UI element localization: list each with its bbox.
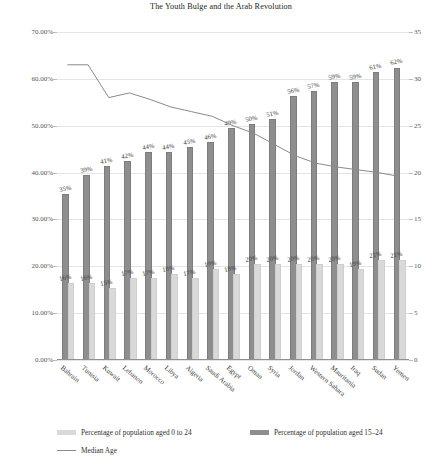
legend-swatch-line [57,450,76,451]
y-axis-right-tick [409,360,413,361]
chart-container: The Youth Bulge and the Arab Revolution … [0,0,442,475]
y-axis-right-tick-label: 25 [414,122,438,130]
y-axis-right-tick-label: 10 [414,262,438,270]
y-axis-right-tick [409,219,413,220]
y-axis-right-tick-label: 15 [414,215,438,223]
median-age-line-series [57,32,409,360]
x-axis-label-tunisia: Tunisia [80,364,101,383]
y-axis-right-tick [409,266,413,267]
y-axis-right-tick-label: 30 [414,75,438,83]
x-axis-label-lebanon: Lebanon [121,364,145,386]
y-axis-left-tick-label: 50.00% [3,122,53,130]
x-axis-label-algeria: Algeria [183,364,204,384]
legend-label: Percentage of population aged 0 to 24 [81,428,192,437]
plot-area: 35%16%39%16%41%15%42%17%44%17%44%18%45%1… [57,32,409,360]
x-axis-label-oman: Oman [246,364,264,381]
y-axis-left-tick-label: 30.00% [3,215,53,223]
y-axis-right-tick [409,126,413,127]
y-axis-left-tick-label: 0.00% [3,356,53,364]
legend-label: Median Age [81,446,117,455]
y-axis-right-tick-label: 5 [414,309,438,317]
x-axis-label-bahrain: Bahrain [59,364,81,384]
chart-title: The Youth Bulge and the Arab Revolution [0,2,442,11]
y-axis-left-tick-label: 60.00% [3,75,53,83]
y-axis-left-tick-label: 40.00% [3,169,53,177]
y-axis-right-tick-label: 0 [414,356,438,364]
y-axis-left-tick-label: 20.00% [3,262,53,270]
legend-label: Percentage of population aged 15–24 [274,428,383,437]
legend-item[interactable]: Percentage of population aged 0 to 24 [57,428,192,437]
x-axis-label-egypt: Egypt [225,364,243,381]
y-axis-right-tick-label: 35 [414,28,438,36]
x-axis-baseline [57,359,409,360]
x-axis-label-kuwait: Kuwait [101,364,122,383]
y-axis-right-tick [409,32,413,33]
y-axis-left-tick-label: 70.00% [3,28,53,36]
legend-swatch-light [57,430,76,435]
x-axis-label-iraq: Iraq [349,364,363,377]
x-axis-label-syria: Syria [266,364,282,380]
y-axis-left-tick-label: 10.00% [3,309,53,317]
x-axis-label-jordan: Jordan [287,364,306,382]
y-axis-right-tick [409,173,413,174]
legend-item[interactable]: Percentage of population aged 15–24 [250,428,383,437]
x-axis-label-morocco: Morocco [142,364,167,386]
legend-item[interactable]: Median Age [57,446,117,455]
x-axis-label-sudan: Sudan [370,364,389,381]
median-age-line [67,65,398,177]
gridline [57,360,409,361]
y-axis-right-tick [409,79,413,80]
y-axis-right-tick-label: 20 [414,169,438,177]
x-axis-label-yemen: Yemen [390,364,410,383]
y-axis-right-tick [409,313,413,314]
x-axis-label-libya: Libya [163,364,181,381]
legend-swatch-dark [250,430,269,435]
